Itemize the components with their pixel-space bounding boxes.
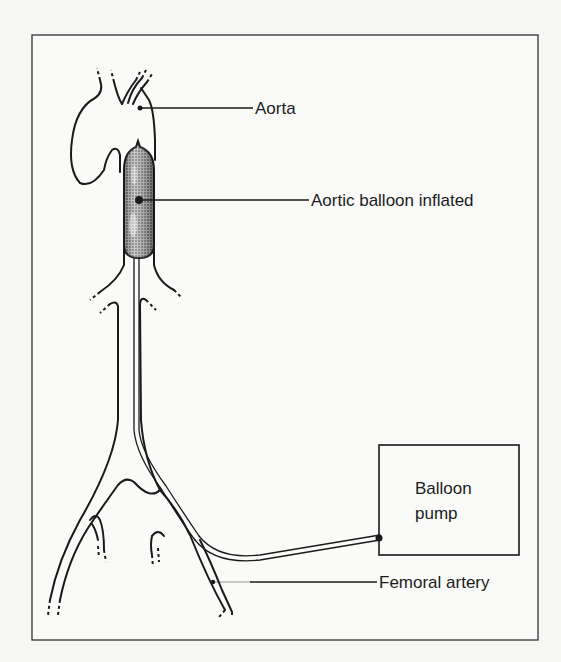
iabp-diagram: Balloon pump Aorta Aortic balloon inflat… <box>0 0 561 662</box>
aorta-label: Aorta <box>255 99 296 118</box>
diagram-frame <box>32 35 538 640</box>
balloon-pump-label-2: pump <box>415 504 458 523</box>
balloon-pump-label-1: Balloon <box>415 479 472 498</box>
femoral-artery-label: Femoral artery <box>379 573 490 592</box>
aortic-balloon-label: Aortic balloon inflated <box>311 191 474 210</box>
